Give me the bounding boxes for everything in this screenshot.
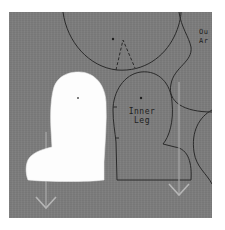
corner-label: Ou Ar: [199, 28, 212, 46]
dot-marking: [112, 38, 114, 40]
cutout-dot: [77, 97, 79, 99]
dart-marking: [116, 40, 135, 70]
top-round-pattern-piece: [63, 12, 181, 70]
pattern-drawing: [9, 12, 212, 218]
corner-label-line1: Ou: [199, 28, 212, 37]
corner-label-line2: Ar: [199, 37, 212, 46]
fabric-photo: Inner Leg Ou Ar: [9, 12, 212, 218]
white-paper-cutout: [26, 72, 106, 182]
inner-leg-label: Inner Leg: [127, 107, 157, 125]
right-lower-curve: [193, 110, 212, 184]
inner-leg-label-line1: Inner: [127, 107, 157, 116]
right-curvy-pattern-piece: [170, 12, 212, 112]
inner-leg-label-line2: Leg: [127, 116, 157, 125]
inner-leg-dot: [140, 97, 142, 99]
